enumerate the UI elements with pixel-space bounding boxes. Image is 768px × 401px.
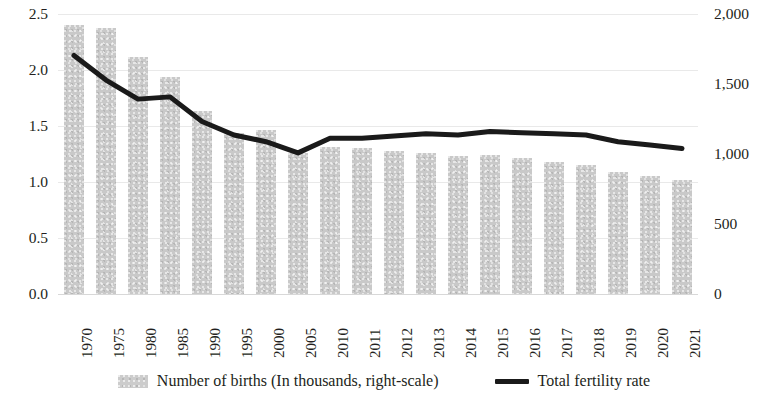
y-right-tick-1500: 1,500 xyxy=(714,76,749,92)
x-axis-tick-2005: 2005 xyxy=(304,328,319,358)
x-axis-tick-1990: 1990 xyxy=(208,328,223,358)
fertility-line-svg xyxy=(58,14,698,294)
y-left-tick-2.5: 2.5 xyxy=(29,6,48,22)
x-axis-tick-2011: 2011 xyxy=(368,329,383,358)
y-right-tick-2000: 2,000 xyxy=(714,6,749,22)
y-left-tick-0.0: 0.0 xyxy=(29,286,48,302)
chart-legend: Number of births (In thousands, right-sc… xyxy=(0,372,768,390)
x-axis-tick-2017: 2017 xyxy=(560,328,575,358)
x-axis-tick-1995: 1995 xyxy=(240,328,255,358)
legend-item-number-of-births: Number of births (In thousands, right-sc… xyxy=(118,372,439,390)
y-right-tick-1000: 1,000 xyxy=(714,146,749,162)
y-left-tick-1.0: 1.0 xyxy=(29,174,48,190)
x-axis-tick-2015: 2015 xyxy=(496,328,511,358)
x-axis-tick-1985: 1985 xyxy=(176,328,191,358)
x-axis-tick-1975: 1975 xyxy=(112,328,127,358)
x-axis-tick-2012: 2012 xyxy=(400,328,415,358)
legend-item-total-fertility-rate: Total fertility rate xyxy=(495,372,651,390)
x-axis-tick-2021: 2021 xyxy=(688,328,703,358)
x-axis-tick-2020: 2020 xyxy=(656,328,671,358)
x-axis-tick-2010: 2010 xyxy=(336,328,351,358)
y-right-tick-0: 0 xyxy=(714,286,722,302)
line-swatch-icon xyxy=(495,379,529,384)
x-axis-tick-2018: 2018 xyxy=(592,328,607,358)
bar-swatch-icon xyxy=(118,375,148,388)
y-left-tick-2.0: 2.0 xyxy=(29,62,48,78)
x-axis-tick-2000: 2000 xyxy=(272,328,287,358)
x-axis-labels: 1970197519801985199019952000200520102011… xyxy=(58,296,698,364)
y-right-tick-500: 500 xyxy=(714,216,737,232)
plot-area xyxy=(58,14,698,294)
gridline xyxy=(58,294,698,295)
line-series-total-fertility-rate xyxy=(58,14,698,294)
x-axis-tick-1970: 1970 xyxy=(80,328,95,358)
x-axis-tick-1980: 1980 xyxy=(144,328,159,358)
legend-label-number-of-births: Number of births (In thousands, right-sc… xyxy=(157,372,439,390)
chart-container: 0.00.51.01.52.02.5 05001,0001,5002,000 1… xyxy=(0,0,768,401)
x-axis-tick-2014: 2014 xyxy=(464,328,479,358)
y-axis-right: 05001,0001,5002,000 xyxy=(706,0,762,401)
y-axis-left: 0.00.51.01.52.02.5 xyxy=(0,0,56,401)
x-axis-tick-2013: 2013 xyxy=(432,328,447,358)
y-left-tick-0.5: 0.5 xyxy=(29,230,48,246)
x-axis-tick-2019: 2019 xyxy=(624,328,639,358)
fertility-rate-polyline xyxy=(74,55,682,152)
x-axis-tick-2016: 2016 xyxy=(528,328,543,358)
y-left-tick-1.5: 1.5 xyxy=(29,118,48,134)
legend-label-total-fertility-rate: Total fertility rate xyxy=(538,372,651,390)
